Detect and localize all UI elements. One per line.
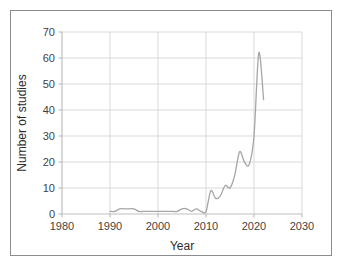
y-tick-labels: 010203040506070 <box>43 26 55 220</box>
line-chart: 010203040506070 198019902000201020202030… <box>0 0 345 268</box>
axis-lines <box>59 32 303 218</box>
y-axis-title: Number of studies <box>15 74 29 171</box>
y-tick-label: 60 <box>43 52 55 64</box>
y-tick-label: 0 <box>49 208 55 220</box>
y-tick-label: 30 <box>43 130 55 142</box>
x-tick-label: 2020 <box>242 220 266 232</box>
figure-container: 010203040506070 198019902000201020202030… <box>0 0 345 268</box>
y-tick-label: 40 <box>43 104 55 116</box>
x-axis-title: Year <box>170 239 194 253</box>
x-tick-label: 1990 <box>98 220 122 232</box>
y-tick-label: 10 <box>43 182 55 194</box>
y-tick-label: 70 <box>43 26 55 38</box>
x-tick-label: 2010 <box>194 220 218 232</box>
y-tick-label: 20 <box>43 156 55 168</box>
gridlines <box>62 32 302 214</box>
x-tick-label: 1980 <box>50 220 74 232</box>
x-tick-labels: 198019902000201020202030 <box>50 220 314 232</box>
x-tick-label: 2000 <box>146 220 170 232</box>
x-tick-label: 2030 <box>290 220 314 232</box>
y-tick-label: 50 <box>43 78 55 90</box>
data-series-line <box>110 52 264 213</box>
